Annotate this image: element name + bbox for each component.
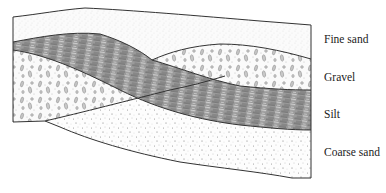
- label-gravel: Gravel: [324, 71, 355, 83]
- label-coarse-sand: Coarse sand: [324, 146, 380, 158]
- cross-section-diagram: [0, 0, 386, 193]
- label-fine-sand: Fine sand: [324, 33, 368, 45]
- label-silt: Silt: [324, 108, 340, 120]
